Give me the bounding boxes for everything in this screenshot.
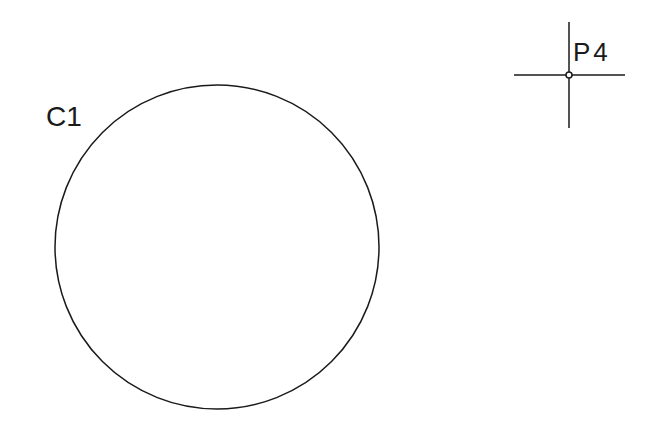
- circle-label: C1: [46, 101, 82, 132]
- circle-c1[interactable]: [55, 85, 379, 409]
- drawing-canvas[interactable]: C1 P4: [0, 0, 664, 430]
- point-marker-icon: [566, 72, 572, 78]
- drawing-svg: C1 P4: [0, 0, 664, 430]
- point-label: P4: [573, 37, 611, 67]
